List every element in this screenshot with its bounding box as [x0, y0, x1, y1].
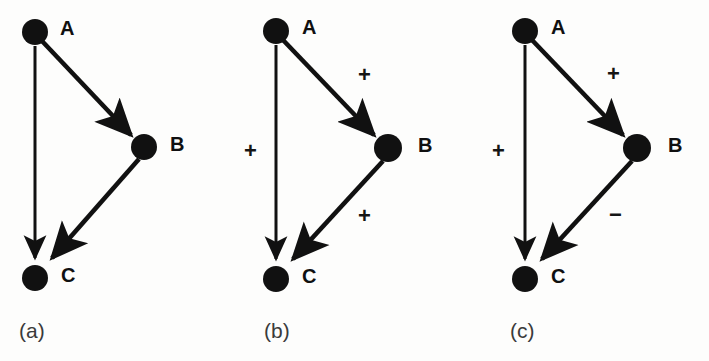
node-label-c-A: A [551, 17, 565, 37]
edge-sign-b-A-to-C: + [244, 140, 257, 162]
edge-sign-b-B-to-C: + [358, 205, 371, 227]
node-label-b-C: C [302, 266, 316, 286]
edge-a-A-to-B [42, 41, 131, 135]
node-c-B [623, 134, 651, 162]
node-a-C [22, 265, 48, 291]
node-b-C [263, 266, 289, 292]
edge-sign-c-A-to-B: + [607, 63, 620, 85]
node-c-A [512, 18, 538, 44]
edge-a-B-to-C [52, 159, 139, 258]
panel-b: A B C + + + [236, 0, 472, 361]
node-label-a-A: A [60, 18, 74, 38]
panel-caption-c: (c) [510, 320, 535, 341]
edge-b-A-to-B [283, 40, 374, 135]
node-label-c-C: C [551, 266, 565, 286]
node-a-B [131, 134, 157, 160]
node-b-A [263, 18, 289, 44]
panel-c: A B C + + − [472, 0, 708, 361]
panel-caption-a: (a) [19, 320, 45, 341]
edge-sign-b-A-to-B: + [358, 64, 371, 86]
panel-a: A B C [0, 0, 236, 361]
node-c-C [512, 266, 538, 292]
figure-root: A B C A B C + + + [0, 0, 709, 361]
node-label-a-C: C [61, 265, 75, 285]
edge-sign-c-A-to-C: + [492, 140, 505, 162]
panel-b-graph [236, 0, 472, 361]
node-a-A [22, 19, 48, 45]
node-label-b-B: B [418, 135, 432, 155]
panel-caption-b: (b) [264, 320, 290, 341]
node-label-b-A: A [302, 17, 316, 37]
edge-sign-c-B-to-C: − [609, 204, 622, 226]
panel-a-graph [0, 0, 236, 361]
edge-c-A-to-B [532, 40, 623, 135]
node-label-c-B: B [668, 135, 682, 155]
node-label-a-B: B [170, 134, 184, 154]
panel-c-graph [472, 0, 708, 361]
node-b-B [374, 134, 402, 162]
